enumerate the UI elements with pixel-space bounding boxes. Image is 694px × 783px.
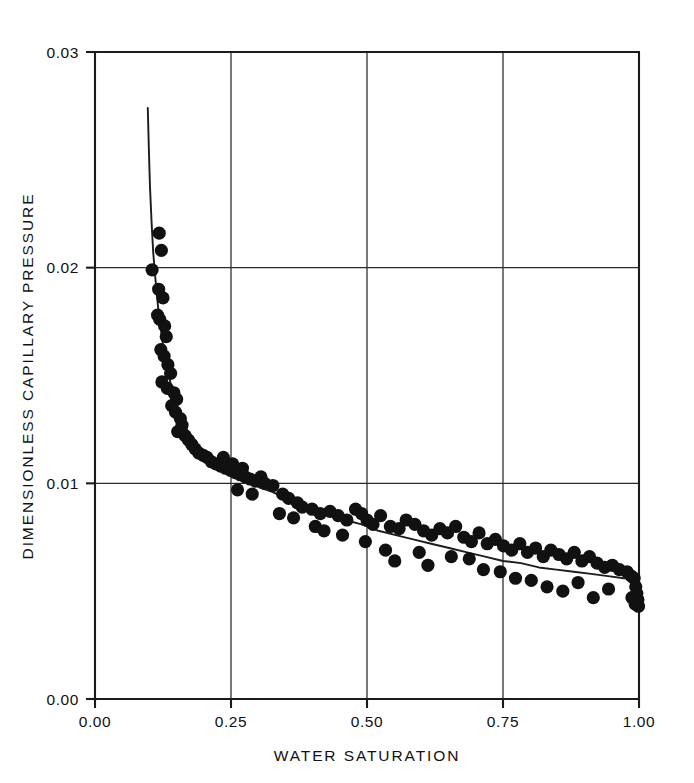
y-axis-title: DIMENSIONLESS CAPILLARY PRESSURE [19, 193, 36, 560]
data-point [556, 585, 569, 598]
data-point [477, 563, 490, 576]
data-point [246, 488, 259, 501]
data-point [336, 528, 349, 541]
data-point [379, 544, 392, 557]
x-tick-label: 0.50 [351, 713, 384, 730]
x-tick-label: 0.00 [79, 713, 112, 730]
data-point [273, 507, 286, 520]
data-point [421, 559, 434, 572]
data-point [540, 580, 553, 593]
data-point [602, 582, 615, 595]
data-point [153, 227, 166, 240]
data-point [317, 524, 330, 537]
data-point [571, 576, 584, 589]
data-point [413, 546, 426, 559]
chart-canvas: 0.000.250.500.751.00 0.000.010.020.03 WA… [0, 0, 694, 783]
data-point [445, 550, 458, 563]
data-point [160, 330, 173, 343]
y-tick-label: 0.01 [46, 475, 79, 492]
x-axis-title: WATER SATURATION [274, 747, 461, 764]
capillary-pressure-figure: 0.000.250.500.751.00 0.000.010.020.03 WA… [0, 0, 694, 783]
data-point [231, 483, 244, 496]
data-point [388, 554, 401, 567]
data-point [155, 244, 168, 257]
data-point [587, 591, 600, 604]
data-point [472, 526, 485, 539]
data-point [359, 535, 372, 548]
data-point [146, 263, 159, 276]
x-tick-label: 0.25 [215, 713, 248, 730]
data-point [449, 520, 462, 533]
y-tick-label: 0.02 [46, 259, 79, 276]
y-tick-label: 0.03 [46, 44, 79, 61]
x-tick-label: 0.75 [487, 713, 520, 730]
data-point [494, 565, 507, 578]
data-point [625, 591, 638, 604]
data-point [340, 513, 353, 526]
data-point [287, 511, 300, 524]
data-point [463, 552, 476, 565]
figure-background [0, 0, 694, 783]
data-point [236, 462, 249, 475]
data-point [374, 509, 387, 522]
x-tick-label: 1.00 [623, 713, 656, 730]
data-point [509, 572, 522, 585]
y-tick-label: 0.00 [46, 691, 79, 708]
data-point [156, 291, 169, 304]
data-point [525, 574, 538, 587]
